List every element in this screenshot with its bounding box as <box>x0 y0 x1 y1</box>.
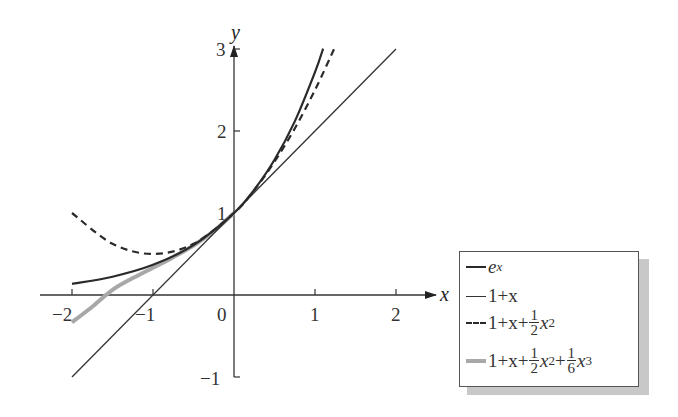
legend-item-quadratic: 1+x+ 12 x2 <box>466 308 555 337</box>
y-tick-label: 2 <box>217 121 227 142</box>
legend-item-exp: ex <box>466 256 502 278</box>
legend-item-cubic: 1+x+ 12 x2 + 16 x3 <box>466 346 592 375</box>
legend-label: 1+x+ <box>488 350 528 372</box>
legend-fraction: 12 <box>529 346 539 375</box>
legend-label: 1+x+ <box>488 312 528 334</box>
series-exp <box>72 49 323 284</box>
x-axis-label: x <box>439 283 449 305</box>
x-tick-label: −1 <box>135 304 155 325</box>
legend-label: x <box>540 350 548 372</box>
legend-label-sup: x <box>496 259 502 275</box>
legend-fraction: 16 <box>567 346 577 375</box>
legend-label: x <box>577 350 585 372</box>
origin-label: 0 <box>217 304 227 325</box>
y-axis-label: y <box>229 21 240 44</box>
legend-swatch-solid-dark <box>466 266 486 268</box>
x-tick-label: −2 <box>52 304 72 325</box>
legend-label: x <box>540 312 548 334</box>
legend-label-sup: 3 <box>586 353 593 369</box>
x-tick-label: 1 <box>310 304 320 325</box>
y-tick-label: −1 <box>200 368 220 389</box>
legend-label: 1+x <box>488 285 518 307</box>
legend-swatch-dashed <box>466 322 486 324</box>
x-tick-label: 2 <box>391 304 401 325</box>
legend-swatch-gray-thick <box>466 359 486 363</box>
y-tick-label: 3 <box>216 39 226 60</box>
legend-label: + <box>555 350 566 372</box>
legend-label-sup: 2 <box>548 315 555 331</box>
legend: ex 1+x 1+x+ 12 x2 1+x+ 12 x2 + 16 x3 <box>459 251 639 387</box>
legend-fraction: 12 <box>529 308 539 337</box>
legend-item-linear: 1+x <box>466 285 518 307</box>
legend-swatch-solid-thin <box>466 296 486 297</box>
